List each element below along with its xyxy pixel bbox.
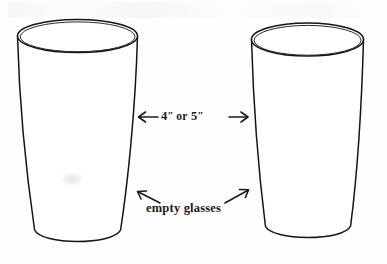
dimension-conjunction: or [176, 110, 187, 122]
left-glass [18, 20, 138, 242]
figure-canvas: 4″ or 5″ empty glasses [0, 0, 387, 264]
inch-mark-primary: ″ [167, 109, 173, 121]
dimension-arrow-right [229, 112, 248, 122]
right-glass-body [252, 40, 364, 238]
line-art-drawing [0, 0, 387, 264]
inch-mark-secondary: ″ [197, 109, 203, 121]
left-glass-body [18, 36, 138, 241]
left-glass-rim-outer [18, 20, 138, 53]
dimension-arrow-left [139, 112, 159, 122]
dimension-label: 4″ or 5″ [161, 108, 203, 123]
right-glass [252, 23, 364, 237]
caption-label: empty glasses [146, 201, 221, 215]
right-glass-rim-outer [252, 23, 364, 56]
caption-arrow-right [225, 190, 249, 204]
